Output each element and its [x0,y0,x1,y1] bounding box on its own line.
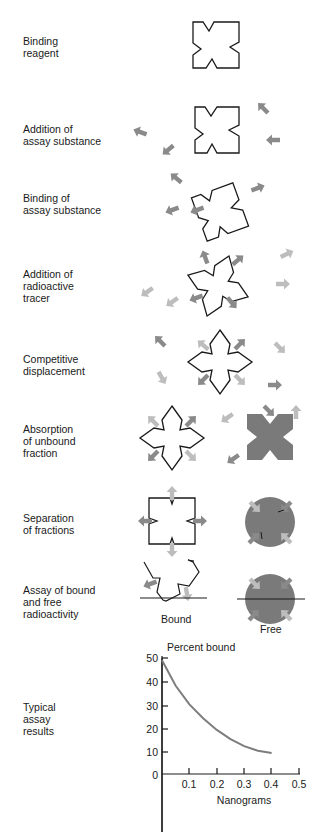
x-axis-label: Nanograms [217,794,271,806]
percent-bound-curve [162,660,272,753]
svg-text:20: 20 [146,723,158,735]
svg-text:10: 10 [146,746,158,758]
y-axis [162,658,168,832]
svg-text:0.2: 0.2 [210,778,225,790]
y-axis-label: Percent bound [167,641,235,653]
assay-diagram [0,0,320,640]
tracer-shape [177,245,259,327]
separation-arrows [138,486,207,557]
svg-text:0.5: 0.5 [292,778,307,790]
svg-text:0.4: 0.4 [264,778,279,790]
binding-reagent-shape [193,22,239,68]
separation-bound-shape [149,498,195,544]
separation-free-shape [245,497,295,547]
step-label-typical-results: Typical assay results [23,701,56,737]
svg-text:0.1: 0.1 [182,778,197,790]
displacement-arrows [151,332,289,390]
assay-free-shape [237,574,305,624]
svg-text:50: 50 [146,652,158,664]
tracer-arrows [138,246,296,312]
svg-text:40: 40 [146,676,158,688]
svg-text:0.3: 0.3 [237,778,252,790]
x-axis [162,768,300,774]
y-tick-labels: 50 40 30 20 10 0 [146,652,158,781]
absorption-arrows [144,409,242,467]
x-tick-labels: 0.1 0.2 0.3 0.4 0.5 [182,778,307,790]
bound-caption: Bound [161,613,191,625]
free-caption: Free [260,623,282,635]
addition-assay-shape [195,107,239,153]
svg-text:30: 30 [146,700,158,712]
svg-text:0: 0 [152,769,158,781]
bound-assay-arrows [164,169,267,217]
absorbent-filled-shape [247,414,293,460]
assay-results-chart: Percent bound 50 40 30 20 10 0 0.1 0.2 0… [130,640,320,832]
binding-assay-shape [191,183,248,241]
